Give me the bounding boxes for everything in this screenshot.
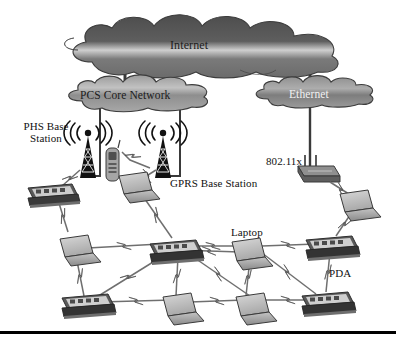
device-pda-3 — [306, 236, 360, 261]
label-laptop: Laptop — [231, 226, 263, 238]
label-phs-base-station: PHS Base Station — [12, 120, 80, 145]
device-laptop-2 — [340, 190, 381, 221]
device-laptop-6 — [236, 293, 277, 325]
cloud-label-ethernet: Ethernet — [289, 88, 329, 101]
wifi-access-point-icon — [298, 155, 340, 182]
label-pda: PDA — [329, 267, 351, 279]
bottom-rule — [0, 331, 396, 334]
cloud-label-internet: Internet — [170, 39, 208, 52]
label-gprs-base-station: GPRS Base Station — [170, 177, 257, 189]
device-laptop-4 — [232, 238, 273, 270]
cloud-label-pcs-core-network: PCS Core Network — [80, 89, 170, 102]
network-diagram-canvas: Internet PCS Core Network Ethernet PHS B… — [0, 0, 396, 347]
device-laptop-3 — [60, 235, 101, 266]
device-pda-4 — [62, 294, 116, 319]
mobile-phone-icon — [106, 140, 120, 181]
device-laptop-1 — [119, 172, 160, 203]
device-pda-1 — [28, 184, 80, 208]
device-laptop-5 — [163, 293, 204, 325]
label-802-11x: 802.11x — [266, 155, 302, 167]
device-pda-2 — [150, 240, 204, 265]
device-pda-5 — [302, 292, 356, 317]
